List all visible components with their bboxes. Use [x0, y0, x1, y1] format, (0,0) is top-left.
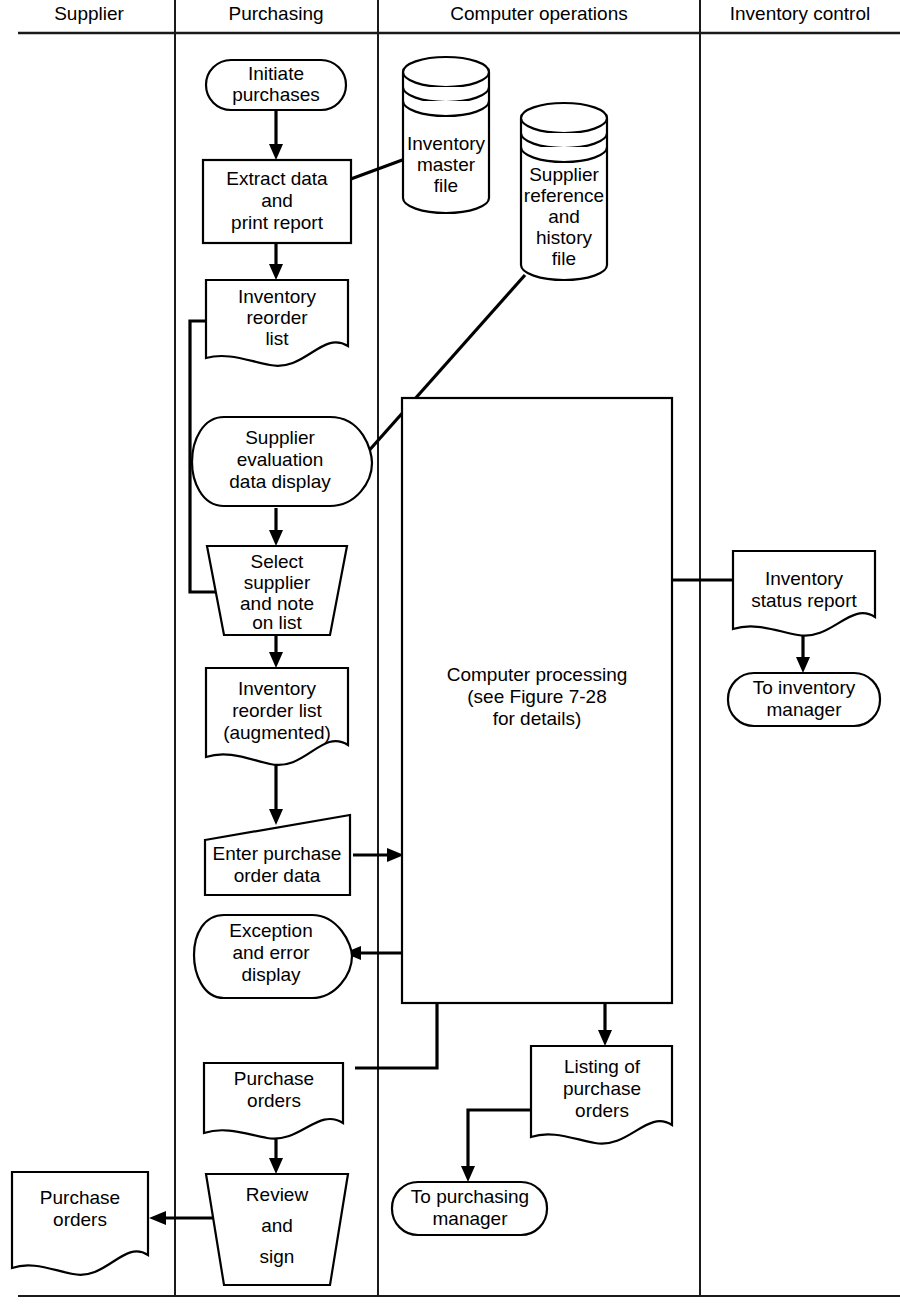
node-label-line-3: and note [240, 593, 314, 614]
node-supplier-reference-file[interactable]: Supplier reference and history file [521, 103, 607, 280]
node-label-line-2: status report [751, 590, 857, 611]
arrowhead-review-to-supplier-orders [149, 1211, 166, 1225]
node-label-line-2: and error [232, 942, 310, 963]
node-extract-data[interactable]: Extract data and print report [203, 160, 351, 243]
node-listing-of-purchase-orders[interactable]: Listing of purchase orders [531, 1046, 672, 1144]
node-label-line-2: order data [234, 865, 321, 886]
node-label-line-2: (see Figure 7-28 [467, 686, 606, 707]
node-label-line-2: and [261, 190, 293, 211]
arrowhead-evaluation-display-to-select [269, 530, 283, 546]
arrowhead-select-to-augmented-list [269, 652, 283, 668]
arrowhead-extract-to-reorder-list [269, 264, 283, 280]
lane-header-inventory-control: Inventory control [730, 3, 870, 24]
node-computer-processing[interactable]: Computer processing (see Figure 7-28 for… [402, 398, 672, 1003]
node-label-line-2: manager [433, 1208, 509, 1229]
node-inventory-status-report[interactable]: Inventory status report [733, 551, 875, 636]
node-label-line-2: supplier [244, 572, 311, 593]
node-label-line-2: orders [53, 1209, 107, 1230]
node-label-line-1: Inventory [238, 286, 317, 307]
node-label-line-3: file [434, 175, 458, 196]
arrowhead-status-report-to-inventory-manager [796, 657, 810, 673]
node-label-line-2: evaluation [237, 449, 324, 470]
node-to-purchasing-manager[interactable]: To purchasing manager [392, 1182, 547, 1235]
node-label-line-3: data display [229, 471, 331, 492]
arrowhead-initiate-to-extract [269, 144, 283, 160]
node-supplier-evaluation-display[interactable]: Supplier evaluation data display [192, 417, 372, 506]
node-label-line-3: list [265, 328, 289, 349]
node-label-line-2: and [261, 1215, 293, 1236]
node-label-line-3: and [548, 206, 580, 227]
node-enter-purchase-order-data[interactable]: Enter purchase order data [205, 815, 350, 895]
node-label-line-2: master [417, 154, 476, 175]
node-label-line-1: To purchasing [411, 1186, 529, 1207]
node-label-line-1: Purchase [40, 1187, 120, 1208]
node-label-line-1: Enter purchase [213, 843, 342, 864]
node-label-line-1: Inventory [407, 133, 486, 154]
node-label-line-2: purchases [232, 84, 320, 105]
node-exception-error-display[interactable]: Exception and error display [194, 915, 352, 998]
lane-header-supplier: Supplier [54, 3, 124, 24]
node-label-line-3: (augmented) [223, 722, 331, 743]
connector-processing-to-purchase-orders [355, 1003, 437, 1068]
node-label-line-4: history [536, 227, 592, 248]
node-label-line-2: orders [247, 1090, 301, 1111]
arrowhead-processing-to-listing [598, 1030, 612, 1046]
node-review-and-sign[interactable]: Review and sign [206, 1174, 348, 1285]
flowchart-canvas: Supplier Purchasing Computer operations … [0, 0, 900, 1310]
node-label-line-2: reference [524, 185, 604, 206]
node-inventory-reorder-list[interactable]: Inventory reorder list [206, 280, 348, 366]
node-label-line-1: Inventory [238, 678, 317, 699]
node-label-line-1: Extract data [226, 168, 328, 189]
node-label-line-1: Computer processing [447, 664, 628, 685]
node-label-line-1: Supplier [245, 427, 315, 448]
node-inventory-master-file[interactable]: Inventory master file [403, 57, 489, 213]
node-label-line-2: reorder [246, 307, 308, 328]
node-purchase-orders-internal[interactable]: Purchase orders [204, 1063, 343, 1139]
node-label-line-1: Exception [229, 920, 312, 941]
arrowhead-purchase-orders-to-review [269, 1158, 283, 1174]
node-initiate-purchases[interactable]: Initiate purchases [206, 60, 346, 110]
node-label-line-3: orders [575, 1100, 629, 1121]
node-label-line-3: for details) [493, 708, 582, 729]
arrowhead-listing-to-purchasing-manager [461, 1166, 475, 1182]
node-label-line-2: manager [767, 699, 843, 720]
node-label-line-2: reorder list [232, 700, 322, 721]
lane-header-purchasing: Purchasing [228, 3, 323, 24]
connector-listing-to-purchasing-manager [468, 1110, 531, 1168]
node-label-line-3: display [241, 964, 301, 985]
arrowhead-augmented-list-to-enter-data [269, 809, 283, 825]
node-label-line-1: Supplier [529, 164, 599, 185]
lane-header-computer-operations: Computer operations [450, 3, 627, 24]
node-label-line-1: Listing of [564, 1056, 641, 1077]
node-purchase-orders-supplier[interactable]: Purchase orders [12, 1172, 148, 1275]
node-label-line-3: print report [231, 212, 324, 233]
node-to-inventory-manager[interactable]: To inventory manager [728, 673, 880, 726]
node-label-line-2: purchase [563, 1078, 641, 1099]
node-label-line-3: sign [260, 1246, 295, 1267]
node-inventory-reorder-list-augmented[interactable]: Inventory reorder list (augmented) [206, 668, 348, 765]
node-label-line-1: Initiate [248, 63, 304, 84]
node-label-line-1: Purchase [234, 1068, 314, 1089]
node-select-supplier[interactable]: Select supplier and note on list [207, 546, 347, 635]
node-label-line-1: To inventory [753, 677, 856, 698]
node-label-line-1: Review [246, 1184, 309, 1205]
node-label-line-5: file [552, 248, 576, 269]
flowchart-svg: Supplier Purchasing Computer operations … [0, 0, 900, 1310]
node-label-line-1: Inventory [765, 568, 844, 589]
node-label-line-4: on list [252, 612, 302, 633]
node-label-line-1: Select [251, 551, 305, 572]
